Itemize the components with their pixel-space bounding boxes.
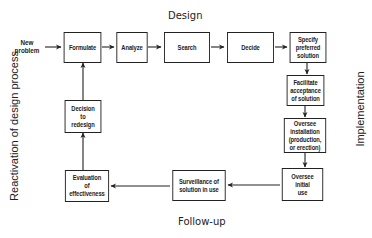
implementation-phase-title: Implementation [354, 59, 366, 159]
surveillance-box: Surveillance of solution in use [172, 170, 225, 201]
installation-box: Oversee installation (production, or ere… [284, 118, 326, 153]
decide-label: Decide [241, 44, 259, 52]
search-box: Search [164, 32, 210, 63]
specify-label: Specify preferred solution [296, 36, 321, 60]
specify-box: Specify preferred solution [290, 32, 327, 63]
initial-use-label: Oversee initial use [291, 173, 313, 197]
evaluation-box: Evaluation of effectiveness [65, 170, 109, 202]
decide-box: Decide [227, 32, 274, 63]
new-problem-label: New problem [12, 39, 42, 55]
facilitate-box: Facilitate acceptance of solution [287, 75, 325, 106]
analyze-label: Analyze [121, 44, 142, 52]
initial-use-box: Oversee initial use [282, 168, 323, 201]
formulate-box: Formulate [64, 32, 102, 63]
reactivation-phase-title: Reactivation of design process [8, 46, 20, 206]
search-label: Search [178, 44, 197, 52]
follow-up-phase-title: Follow-up [178, 216, 226, 227]
design-phase-title: Design [168, 10, 203, 21]
formulate-label: Formulate [69, 44, 96, 52]
evaluation-label: Evaluation of effectiveness [69, 174, 105, 198]
redesign-box: Decision to redesign [65, 100, 102, 133]
surveillance-label: Surveillance of solution in use [179, 178, 219, 194]
facilitate-label: Facilitate acceptance of solution [290, 79, 321, 103]
installation-label: Oversee installation (production, or ere… [289, 120, 322, 152]
redesign-label: Decision to redesign [71, 105, 94, 129]
analyze-box: Analyze [116, 32, 147, 63]
